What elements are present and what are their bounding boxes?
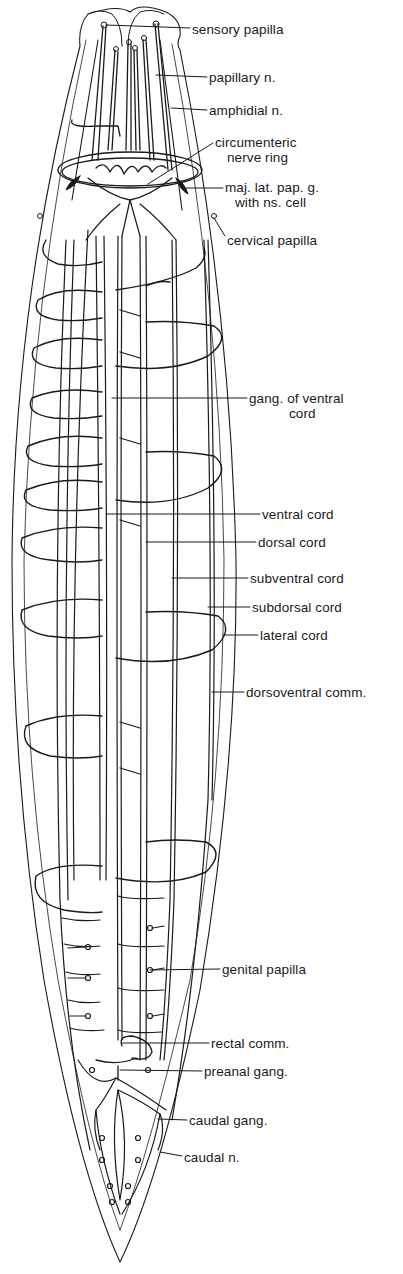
label-subventral-cord: subventral cord	[250, 571, 344, 586]
label-gang-line1: gang. of ventral	[249, 391, 344, 406]
tail-nerves	[78, 1060, 166, 1214]
label-gang-of-ventral-cord: gang. of ventral cord	[249, 391, 344, 421]
longitudinal-cords-right	[117, 236, 214, 1120]
label-dorsal-cord: dorsal cord	[258, 535, 326, 550]
label-caudal-n: caudal n.	[184, 1150, 240, 1165]
label-maj-lat-line1: maj. lat. pap. g.	[225, 180, 319, 195]
body-outline	[12, 7, 236, 1262]
dorsoventral-commissures-right	[116, 248, 226, 882]
label-ventral-cord: ventral cord	[262, 507, 334, 522]
preanal-ganglion	[96, 1058, 136, 1080]
label-circumenteric-nerve-ring: circumenteric nerve ring	[215, 135, 297, 165]
label-rectal-comm: rectal comm.	[211, 1036, 289, 1051]
label-sensory-papilla: sensory papilla	[192, 22, 284, 37]
nematode-nervous-system-diagram: sensory papilla papillary n. amphidial n…	[0, 0, 403, 1274]
genital-papillae	[62, 896, 164, 1033]
label-circumenteric-line2: nerve ring	[215, 150, 297, 165]
label-gang-line2: cord	[249, 406, 344, 421]
label-caudal-gang: caudal gang.	[189, 1113, 268, 1128]
commissure-stubs	[120, 282, 170, 775]
rectal-commissure	[121, 1036, 152, 1059]
dorsoventral-commissures-left	[21, 240, 102, 913]
label-genital-papilla: genital papilla	[222, 962, 306, 977]
label-circumenteric-line1: circumenteric	[215, 135, 297, 150]
label-papillary-n: papillary n.	[209, 70, 276, 85]
inner-body-line	[24, 40, 224, 1230]
label-dorsoventral-comm: dorsoventral comm.	[246, 685, 366, 700]
nematode-body-drawing	[0, 0, 403, 1274]
label-subdorsal-cord: subdorsal cord	[252, 600, 342, 615]
label-lateral-cord: lateral cord	[260, 628, 328, 643]
label-maj-lat-line2: with ns. cell	[225, 195, 319, 210]
cervical-papilla-left	[38, 214, 43, 219]
label-preanal-gang: preanal gang.	[204, 1064, 288, 1079]
label-cervical-papilla: cervical papilla	[227, 233, 317, 248]
label-amphidial-n: amphidial n.	[209, 103, 283, 118]
label-maj-lat-pap-g: maj. lat. pap. g. with ns. cell	[225, 180, 319, 210]
